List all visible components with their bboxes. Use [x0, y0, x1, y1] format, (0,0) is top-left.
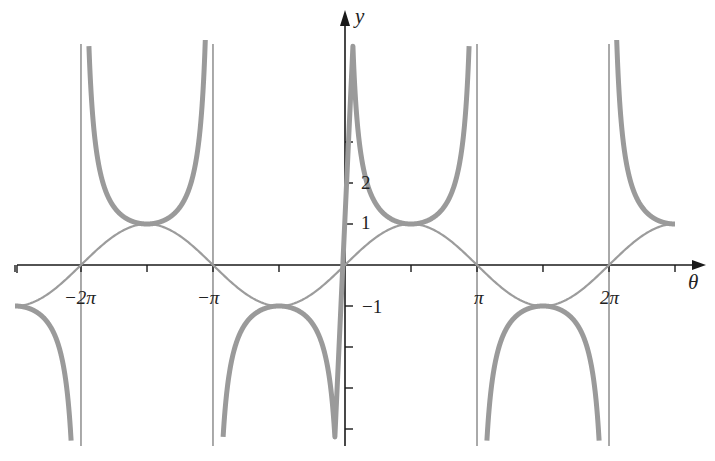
cosecant-branch	[89, 40, 205, 224]
y-axis-arrow-icon	[340, 10, 350, 26]
x-axis-arrow-icon	[692, 260, 706, 270]
cosecant-branch	[617, 40, 675, 224]
x-tick-label-pi: π	[474, 288, 484, 307]
cosecant-branch	[223, 46, 469, 437]
x-tick-label-neg-pi: −π	[197, 288, 219, 307]
x-tick-label-2pi: 2π	[600, 288, 619, 307]
y-axis-label: y	[355, 6, 364, 27]
y-tick-label-2: 2	[361, 173, 371, 192]
x-tick-label-neg-2pi: −2π	[64, 288, 96, 307]
cosecant-branch	[15, 306, 71, 441]
y-tick-label-1: 1	[361, 213, 371, 232]
y-tick-label-neg1: −1	[362, 297, 382, 316]
cosecant-branch	[487, 306, 599, 441]
plot-area	[0, 0, 715, 461]
x-axis-label: θ	[688, 272, 698, 293]
